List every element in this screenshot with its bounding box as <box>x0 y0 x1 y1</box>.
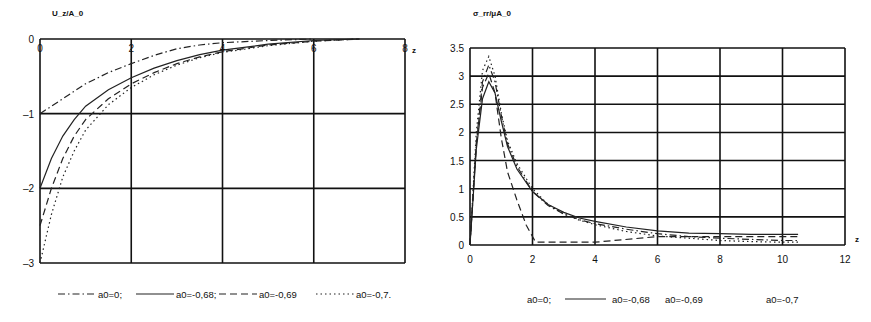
x-tick-label: 12 <box>839 254 851 265</box>
y-tick-label: 1.5 <box>450 156 464 167</box>
y-tick-label: 3 <box>458 71 464 82</box>
grid <box>470 48 845 245</box>
legend-label: a0=-0,69 <box>665 294 703 305</box>
legend: a0=0;a0=-0,68a0=-0,69a0=-0,7 <box>527 294 799 305</box>
x-axis-label: z <box>855 235 859 244</box>
series-solid <box>470 82 798 245</box>
y-tick-label: 2.5 <box>450 99 464 110</box>
stress-chart: 02468101200.511.522.533.5 σ_rr/μA_0 z a0… <box>0 0 871 322</box>
x-tick-label: 0 <box>467 254 473 265</box>
y-tick-label: 3.5 <box>450 43 464 54</box>
y-tick-label: 0 <box>458 240 464 251</box>
legend-label: a0=-0,68 <box>612 294 650 305</box>
x-tick-label: 4 <box>592 254 598 265</box>
y-tick-label: 0.5 <box>450 212 464 223</box>
x-tick-label: 8 <box>717 254 723 265</box>
series-dashdot <box>470 65 798 245</box>
x-tick-label: 10 <box>777 254 789 265</box>
y-axis-label: σ_rr/μA_0 <box>473 9 511 18</box>
x-tick-label: 6 <box>655 254 661 265</box>
x-tick-label: 2 <box>530 254 536 265</box>
y-tick-label: 2 <box>458 127 464 138</box>
series-dashed <box>470 73 798 245</box>
legend-label: a0=0; <box>527 294 551 305</box>
y-tick-label: 1 <box>458 184 464 195</box>
legend-label: a0=-0,7 <box>766 294 799 305</box>
